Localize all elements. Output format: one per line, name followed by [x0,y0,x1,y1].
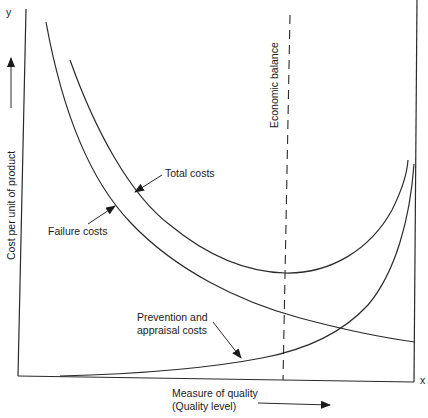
quality-cost-chart: y x Cost per unit of product Measure of … [0,0,428,418]
prevention-label-line1: Prevention and [137,311,208,323]
y-axis-label: Cost per unit of product [5,151,17,260]
economic-balance-line [283,15,290,380]
y-axis [18,9,26,376]
x-axis-letter: x [420,374,426,386]
x-axis-label-line2: (Quality level) [172,400,236,412]
right-border [414,0,417,382]
total-costs-curve [70,60,408,273]
x-axis-label-line1: Measure of quality [172,387,259,399]
failure-costs-arrow-icon [88,206,115,224]
prevention-label-line2: appraisal costs [137,324,207,336]
y-axis-letter: y [6,6,12,18]
prevention-appraisal-costs-curve [60,164,414,376]
economic-balance-label: Economic balance [268,42,280,128]
failure-costs-label: Failure costs [48,225,108,237]
total-costs-label: Total costs [165,167,215,179]
failure-costs-curve [46,22,415,342]
x-axis-arrow-icon [258,403,330,405]
total-costs-arrow-icon [135,175,162,192]
x-axis [18,376,414,382]
prevention-arrow-icon [213,322,241,358]
